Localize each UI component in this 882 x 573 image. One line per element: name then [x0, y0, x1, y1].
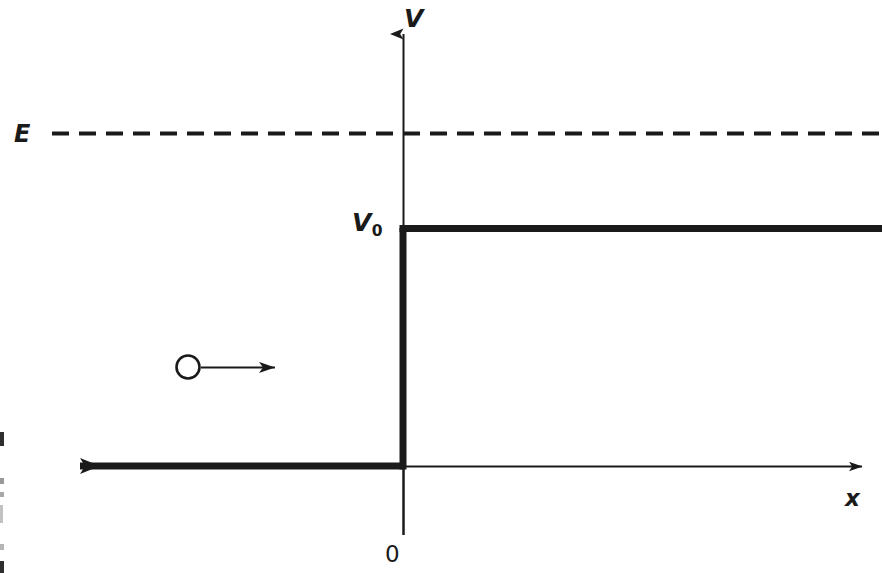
scan-artifact [0, 505, 3, 523]
x-axis-label: x [845, 487, 860, 510]
scan-artifact [0, 432, 4, 446]
v-axis-label: V [404, 6, 423, 31]
scan-artifact [0, 492, 4, 497]
step-height-label: V0 [352, 210, 383, 239]
potential-step-figure: V E V0 x 0 [0, 0, 882, 573]
diagram-canvas [0, 0, 882, 573]
scan-artifact [0, 561, 4, 573]
potential-step-curve [80, 228, 882, 470]
energy-level-label: E [14, 122, 30, 146]
step-height-symbol: V [352, 208, 371, 237]
scan-artifact [0, 544, 4, 550]
scan-artifact [0, 478, 4, 484]
incident-particle-group [177, 356, 276, 379]
origin-label: 0 [385, 543, 400, 566]
axes-group [404, 34, 863, 535]
step-height-subscript: 0 [372, 222, 383, 240]
open-circle-icon [177, 356, 200, 379]
